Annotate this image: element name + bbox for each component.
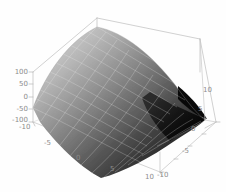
- y-axis-tick-0: 0: [191, 126, 195, 133]
- y-axis-tick-neg5: -5: [182, 148, 189, 155]
- x-axis-tick-10: 10: [145, 174, 154, 181]
- x-axis-tick-5: 5: [110, 166, 114, 173]
- x-axis-tick-neg5: -5: [44, 140, 51, 147]
- z-axis-tick-neg50: -50: [8, 106, 28, 113]
- y-axis-tick-neg10: -10: [157, 172, 168, 179]
- y-axis-tick-5: 5: [198, 106, 202, 113]
- plot-canvas: [0, 0, 226, 192]
- surface-plot-3d: 100 50 0 -50 -100 -10 -5 0 5 10 -10 -5 0…: [0, 0, 226, 192]
- y-axis-tick-10: 10: [203, 87, 212, 94]
- z-axis-tick-100: 100: [8, 69, 28, 76]
- z-axis-tick-0: 0: [8, 94, 28, 101]
- z-axis-tick-50: 50: [8, 81, 28, 88]
- x-axis-tick-0: 0: [76, 155, 80, 162]
- x-axis-tick-neg10: -10: [19, 124, 30, 131]
